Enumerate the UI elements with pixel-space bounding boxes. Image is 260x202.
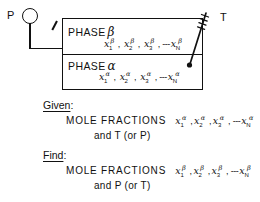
x-superscript: α xyxy=(249,114,254,122)
x-subscript: N xyxy=(244,172,249,178)
find-heading-colon: : xyxy=(63,149,66,161)
x-subscript: N xyxy=(246,122,251,128)
x-superscript: β xyxy=(130,37,134,45)
separator: , xyxy=(138,39,142,49)
pressure-label: P xyxy=(7,10,15,21)
x-subscript: 3 xyxy=(149,45,152,51)
mole-fraction-term: x1β xyxy=(104,39,118,49)
x-subscript: 2 xyxy=(129,45,132,51)
given-heading: Given: xyxy=(43,100,73,111)
temperature-label: T xyxy=(220,12,227,23)
x-subscript: 1 xyxy=(180,122,184,128)
mole-fraction-term: x3β xyxy=(144,39,158,49)
gauge-needle-icon xyxy=(51,21,57,31)
x-subscript: N xyxy=(173,78,177,84)
pressure-gauge-icon xyxy=(22,8,38,24)
x-superscript: β xyxy=(182,164,186,172)
given-heading-word: Given xyxy=(43,99,70,111)
x-superscript: α xyxy=(201,114,206,122)
mole-fraction-term: x1α xyxy=(99,72,113,82)
x-subscript: 1 xyxy=(104,78,107,84)
given-heading-colon: : xyxy=(70,99,73,111)
mole-fraction-term: x2β xyxy=(193,166,207,176)
x-superscript: α xyxy=(147,70,152,78)
phase-beta-label: PHASEβ xyxy=(68,26,115,38)
mole-fraction-term: x2β xyxy=(124,39,138,49)
phase-beta-word: PHASE xyxy=(68,26,106,38)
thermometer-icon xyxy=(170,5,220,75)
mole-fraction-term: xNβ xyxy=(239,166,254,176)
gauge-pipe-vertical xyxy=(29,23,31,49)
x-superscript: β xyxy=(110,37,114,45)
x-subscript: 2 xyxy=(199,122,203,128)
x-superscript: β xyxy=(150,37,154,45)
given-condition-line: and T (or P) xyxy=(94,131,151,141)
mole-fraction-term: x3α xyxy=(213,116,228,126)
find-heading-word: Find xyxy=(43,149,63,161)
gauge-pipe-horizontal xyxy=(29,48,63,50)
mole-fraction-term: x3β xyxy=(212,166,226,176)
x-subscript: 2 xyxy=(125,78,128,84)
x-superscript: β xyxy=(247,164,251,172)
x-superscript: β xyxy=(200,164,204,172)
mole-fraction-term: x2α xyxy=(194,116,209,126)
x-subscript: 2 xyxy=(199,172,203,178)
x-superscript: β xyxy=(218,164,222,172)
given-mole-fractions-label: MOLE FRACTIONS xyxy=(66,115,166,126)
mole-fraction-term: x1β xyxy=(175,166,189,176)
find-heading: Find: xyxy=(43,150,66,161)
phase-equilibrium-diagram: P PHASEβ x1β, x2β, x3β,---xNβ PHASEα x1α… xyxy=(0,0,260,202)
mole-fraction-term: x1α xyxy=(175,116,190,126)
mole-fraction-term: x2α xyxy=(120,72,134,82)
x-subscript: 1 xyxy=(180,172,184,178)
separator: , xyxy=(118,39,122,49)
mole-fraction-term: xNα xyxy=(241,116,257,126)
separator: , xyxy=(134,72,138,82)
given-mole-fractions-line: MOLE FRACTIONS x1α,x2α,x3α,---xNα xyxy=(66,116,257,126)
x-superscript: α xyxy=(105,70,110,78)
find-mole-fractions-line: MOLE FRACTIONS x1β,x2β,x3β,---xNβ xyxy=(66,166,255,176)
ellipsis: --- xyxy=(158,72,168,82)
x-superscript: α xyxy=(182,114,187,122)
ellipsis: --- xyxy=(230,166,240,176)
separator: , xyxy=(113,72,117,82)
x-superscript: α xyxy=(220,114,225,122)
x-subscript: 1 xyxy=(109,45,112,51)
find-condition-line: and P (or T) xyxy=(94,181,151,191)
x-subscript: 3 xyxy=(145,78,148,84)
x-subscript: 3 xyxy=(218,122,222,128)
find-mole-fractions-label: MOLE FRACTIONS xyxy=(66,165,166,176)
mole-fraction-term: x3α xyxy=(140,72,154,82)
x-subscript: 3 xyxy=(217,172,221,178)
ellipsis: --- xyxy=(232,116,242,126)
x-superscript: α xyxy=(126,70,131,78)
